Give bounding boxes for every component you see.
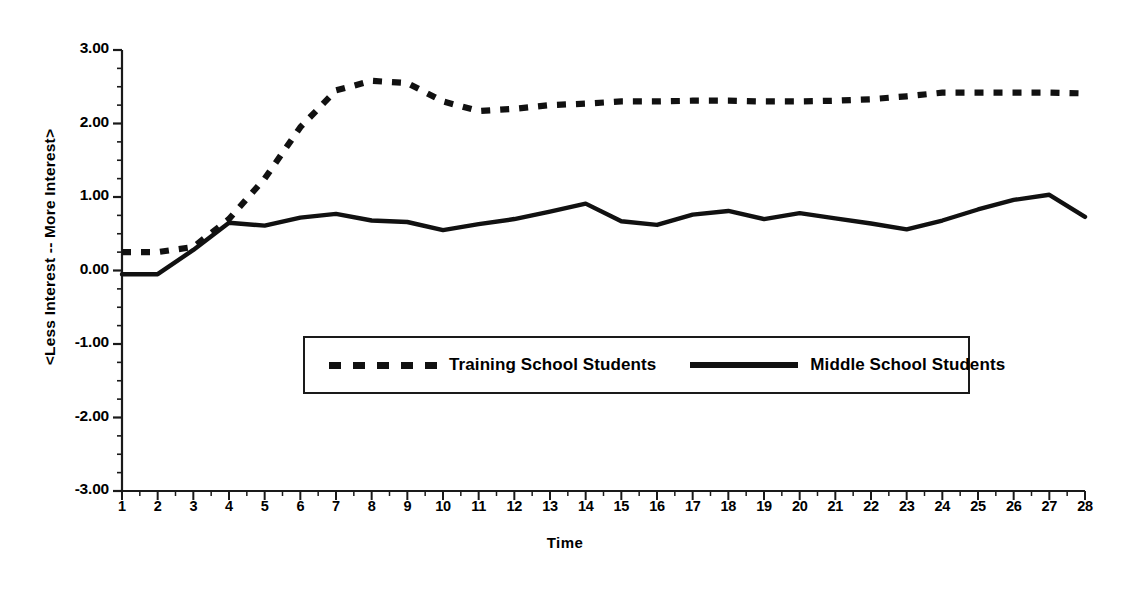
series-line-middle-school-students — [122, 195, 1085, 274]
legend-label-training: Training School Students — [449, 355, 656, 375]
legend-entry-training-school-students: Training School Students — [329, 338, 656, 392]
legend-entry-middle-school-students: Middle School Students — [690, 338, 1005, 392]
y-axis-ticks — [113, 50, 122, 491]
axis-lines — [122, 50, 1085, 491]
dashed-line-swatch-icon — [329, 362, 437, 369]
data-series-layer — [122, 81, 1085, 274]
plot-area — [0, 0, 1130, 599]
x-axis-ticks — [122, 491, 1085, 500]
legend-label-middle: Middle School Students — [810, 355, 1005, 375]
chart-legend: Training School Students Middle School S… — [303, 336, 970, 394]
line-chart: <Less Interest -- More Interest> Time 3.… — [0, 0, 1130, 599]
solid-line-swatch-icon — [690, 362, 798, 368]
